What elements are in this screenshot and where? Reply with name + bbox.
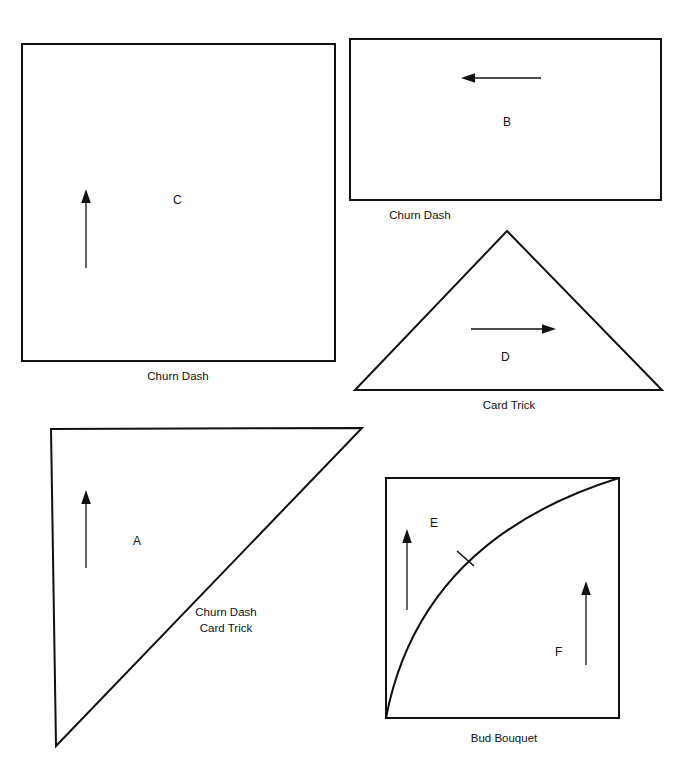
shape-a-caption-line2: Card Trick (200, 622, 253, 634)
shape-ef-arc (386, 478, 619, 718)
shape-a-caption-line1: Churn Dash (195, 606, 256, 618)
arrow-left-icon-b (461, 73, 541, 83)
shape-ef-square (386, 478, 619, 718)
shape-f-letter: F (555, 645, 562, 659)
shape-group-b: B Churn Dash (350, 39, 661, 221)
shape-d-caption: Card Trick (483, 399, 536, 411)
arrow-right-icon-d (471, 324, 556, 334)
shape-b-caption: Churn Dash (389, 209, 450, 221)
shape-ef-caption: Bud Bouquet (471, 732, 538, 744)
shape-e-letter: E (430, 516, 438, 530)
shape-a-letter: A (133, 534, 141, 548)
shape-group-c: C Churn Dash (22, 44, 335, 382)
shape-c-caption: Churn Dash (147, 370, 208, 382)
shape-b-letter: B (503, 115, 511, 129)
shape-d-triangle (355, 231, 662, 390)
arrow-up-icon-c (81, 189, 91, 268)
shape-group-a: A Churn Dash Card Trick (51, 428, 362, 746)
arrow-up-icon-a (81, 490, 91, 568)
arrow-up-icon-e (402, 529, 412, 610)
quilt-block-diagram: C Churn Dash B Churn Dash D Card Trick (0, 0, 699, 783)
shape-group-d: D Card Trick (355, 231, 662, 411)
arrow-up-icon-f (581, 581, 591, 665)
diagram-canvas: C Churn Dash B Churn Dash D Card Trick (0, 0, 699, 783)
shape-c-letter: C (173, 193, 182, 207)
shape-group-ef: E F Bud Bouquet (386, 478, 619, 744)
shape-a-triangle (51, 428, 362, 746)
shape-d-letter: D (501, 350, 510, 364)
